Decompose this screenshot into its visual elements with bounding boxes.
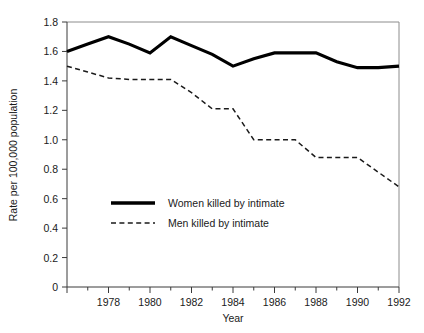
x-tick-marks	[67, 287, 399, 293]
y-tick-label: 0.6	[43, 193, 58, 205]
y-tick-labels: 00.20.40.60.81.01.21.41.61.8	[43, 16, 58, 293]
x-tick-label: 1978	[97, 296, 121, 308]
y-tick-label: 0.8	[43, 163, 58, 175]
series-line-men-killed-by-intimate	[67, 66, 399, 187]
x-tick-label: 1992	[387, 296, 411, 308]
series-line-women-killed-by-intimate	[67, 37, 399, 68]
y-tick-label: 1.4	[43, 75, 58, 87]
x-axis-title: Year	[222, 312, 244, 324]
legend-label-women: Women killed by intimate	[168, 197, 285, 209]
chart-legend: Women killed by intimate Men killed by i…	[111, 197, 285, 229]
plot-frame	[67, 22, 399, 287]
y-tick-label: 1.8	[43, 16, 58, 28]
x-tick-label: 1982	[180, 296, 204, 308]
chart-container: 00.20.40.60.81.01.21.41.61.8 Rate per 10…	[0, 0, 424, 333]
legend-item-men: Men killed by intimate	[111, 217, 269, 229]
y-tick-label: 0.4	[43, 222, 58, 234]
legend-label-men: Men killed by intimate	[168, 217, 269, 229]
x-axis: 19781980198219841986198819901992 Year	[67, 287, 411, 324]
y-tick-label: 0.2	[43, 252, 58, 264]
y-tick-label: 0	[52, 281, 58, 293]
y-tick-label: 1.6	[43, 45, 58, 57]
line-chart: 00.20.40.60.81.01.21.41.61.8 Rate per 10…	[0, 0, 424, 333]
y-axis-title: Rate per 100,000 population	[7, 89, 19, 222]
y-axis: 00.20.40.60.81.01.21.41.61.8 Rate per 10…	[7, 16, 67, 293]
y-tick-label: 1.2	[43, 104, 58, 116]
y-tick-label: 1.0	[43, 134, 58, 146]
x-tick-label: 1986	[263, 296, 287, 308]
x-tick-label: 1984	[221, 296, 245, 308]
x-tick-label: 1988	[304, 296, 328, 308]
x-tick-label: 1980	[138, 296, 162, 308]
x-tick-labels: 19781980198219841986198819901992	[97, 296, 411, 308]
legend-item-women: Women killed by intimate	[111, 197, 285, 209]
data-series	[67, 37, 399, 187]
y-tick-marks	[62, 22, 67, 287]
x-tick-label: 1990	[346, 296, 370, 308]
